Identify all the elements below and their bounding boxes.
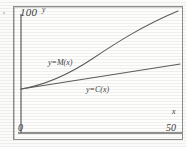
x-axis-max-tick-label: 50	[166, 123, 176, 133]
x-axis-name-label: x	[172, 108, 176, 116]
plot-area-svg	[0, 0, 186, 147]
curve-c-annotation-label: y=C(x)	[86, 86, 109, 94]
y-axis-name-label: y	[42, 6, 45, 14]
curve-m-annotation-label: y=M(x)	[48, 59, 73, 67]
origin-tick-label: 0	[18, 123, 23, 133]
curve-m-path	[21, 11, 178, 89]
y-axis-max-tick-label: 100	[20, 7, 37, 18]
figure-container: 100 y 0 50 x y=M(x) y=C(x)	[0, 0, 186, 147]
